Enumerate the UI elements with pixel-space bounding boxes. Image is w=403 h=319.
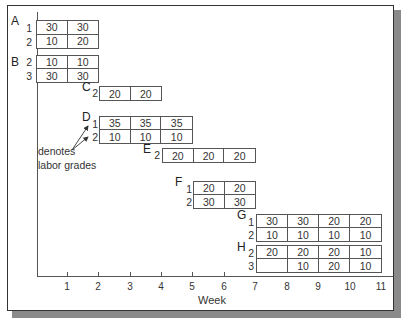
cell: 10 <box>319 228 350 241</box>
cell: 30 <box>288 215 319 228</box>
cell: 20 <box>257 246 288 259</box>
cell: 10 <box>288 228 319 241</box>
cell: 20 <box>224 149 255 162</box>
cell: 20 <box>194 182 225 195</box>
cell: 20 <box>225 182 256 195</box>
activity-box-h: 20 20 20 10 10 20 10 <box>256 245 382 273</box>
activity-box-f: 20 20 30 30 <box>193 181 256 209</box>
grade-label: 1 <box>244 216 254 228</box>
cell: 20 <box>319 259 350 272</box>
cell: 10 <box>350 228 381 241</box>
activity-box-g: 30 30 20 20 10 10 10 10 <box>256 214 382 242</box>
cell: 20 <box>163 149 194 162</box>
cell: 10 <box>257 228 288 241</box>
cell: 10 <box>350 259 381 272</box>
cell: 20 <box>350 215 381 228</box>
cell: 20 <box>319 215 350 228</box>
cell: 30 <box>225 195 256 208</box>
grade-label: 2 <box>244 247 254 259</box>
cell: 20 <box>319 246 350 259</box>
grade-label: 3 <box>244 260 254 272</box>
grade-label: 2 <box>150 149 160 161</box>
grade-label: 1 <box>182 183 192 195</box>
cell: 10 <box>288 259 319 272</box>
grade-label: 2 <box>182 196 192 208</box>
cell: 30 <box>257 215 288 228</box>
cell: 30 <box>194 195 225 208</box>
cell <box>257 259 288 272</box>
activity-box-e: 20 20 20 <box>162 148 256 163</box>
cell: 20 <box>194 149 225 162</box>
cell: 20 <box>288 246 319 259</box>
cell: 10 <box>350 246 381 259</box>
